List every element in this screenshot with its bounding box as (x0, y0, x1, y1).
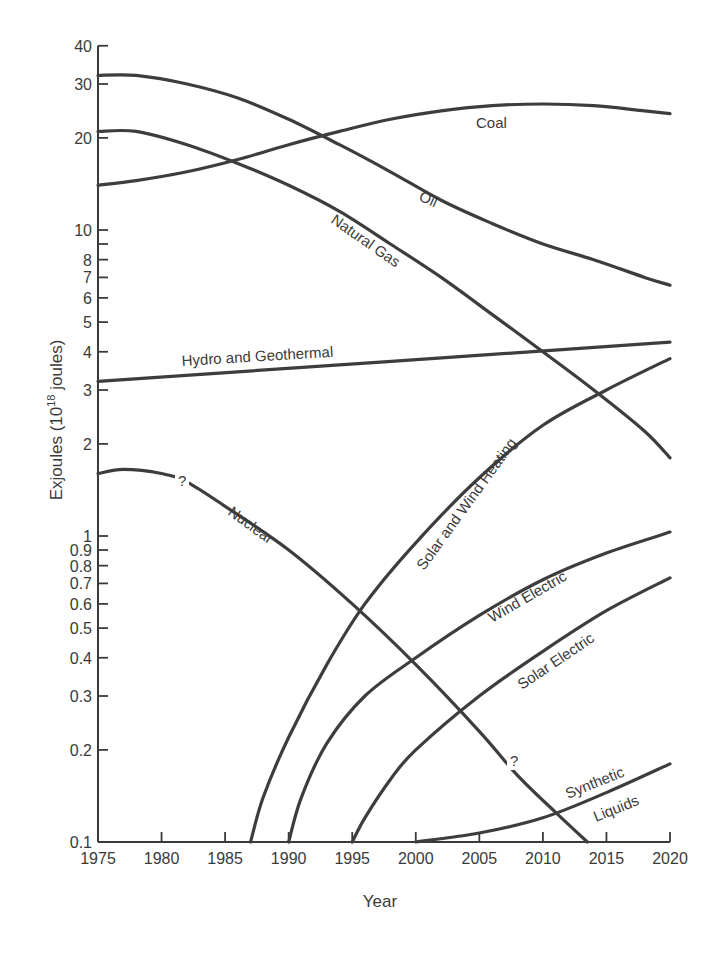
x-tick-label: 2010 (525, 850, 561, 867)
label-wind-electric: Wind Electric (485, 567, 570, 626)
series-natural-gas (98, 130, 670, 457)
y-axis-title-tail: joules) (47, 340, 66, 395)
y-tick-label: 20 (74, 130, 92, 147)
series-lines (98, 75, 670, 842)
x-tick-label: 2005 (462, 850, 498, 867)
energy-projection-chart: 40302010876543210.90.80.70.60.50.40.30.2… (0, 0, 723, 959)
x-tick-label: 2015 (589, 850, 625, 867)
y-tick-label: 8 (83, 252, 92, 269)
y-tick-label: 0.1 (70, 834, 92, 851)
y-tick-label: 0.8 (70, 558, 92, 575)
x-tick-label: 1985 (207, 850, 243, 867)
uncertainty-mark-1982: ? (178, 472, 186, 489)
y-tick-label: 10 (74, 222, 92, 239)
x-axis-title: Year (363, 892, 398, 911)
y-tick-label: 0.4 (70, 650, 92, 667)
label-nuclear: Nuclear (225, 503, 277, 547)
y-tick-label: 4 (83, 344, 92, 361)
y-tick-label: 30 (74, 76, 92, 93)
series-wind-electric (289, 532, 670, 842)
x-tick-label: 1975 (80, 850, 116, 867)
y-tick-label: 0.5 (70, 620, 92, 637)
x-tick-label: 2000 (398, 850, 434, 867)
y-axis-title: Exjoules (1018 joules) (45, 340, 66, 501)
y-tick-label: 0.9 (70, 542, 92, 559)
y-tick-label: 2 (83, 436, 92, 453)
label-coal: Coal (476, 114, 507, 131)
y-tick-label: 0.6 (70, 596, 92, 613)
x-tick-label: 1990 (271, 850, 307, 867)
x-tick-label: 1995 (334, 850, 370, 867)
inline-labels: Coal Oil Natural Gas Hydro and Geotherma… (178, 114, 641, 825)
y-axis-title-superscript: 18 (45, 395, 57, 407)
series-nuclear (98, 469, 587, 842)
y-tick-label: 0.2 (70, 742, 92, 759)
label-natural-gas: Natural Gas (328, 211, 403, 271)
y-tick-label: 7 (83, 269, 92, 286)
axes: 40302010876543210.90.80.70.60.50.40.30.2… (70, 38, 688, 867)
y-tick-label: 40 (74, 38, 92, 55)
uncertainty-mark-2008: ? (510, 752, 518, 769)
label-hydro-geothermal: Hydro and Geothermal (181, 343, 334, 369)
x-tick-label: 1980 (144, 850, 180, 867)
y-tick-label: 5 (83, 314, 92, 331)
y-tick-label: 0.7 (70, 575, 92, 592)
y-axis-title-main: Exjoules (10 (47, 407, 66, 501)
x-tick-label: 2020 (652, 850, 688, 867)
label-solar-wind-heating: Solar and Wind Heating (413, 435, 520, 573)
y-tick-label: 0.3 (70, 688, 92, 705)
y-tick-label: 6 (83, 290, 92, 307)
y-tick-label: 3 (83, 382, 92, 399)
